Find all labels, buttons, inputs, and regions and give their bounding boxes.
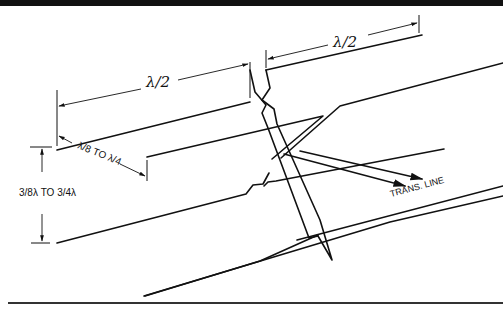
left-dim-arrow-right [178, 64, 248, 80]
small-spacing-arrow-right [120, 164, 145, 176]
svg-text:λ/8 TO λ/4: λ/8 TO λ/4 [76, 140, 123, 168]
front-element-right-half [281, 63, 503, 158]
lower-element-left-half [57, 173, 269, 243]
front-element-left-half [147, 116, 323, 159]
left-half-wave-label: λ/2 [145, 73, 170, 91]
phasing-line-b [262, 70, 332, 260]
small-spacing-label: λ/8 TO λ/4 [76, 140, 123, 168]
top-dim-arrow-right [368, 23, 417, 35]
top-half-wave-label: λ/2 [332, 33, 357, 51]
bottom-left-element [145, 235, 318, 296]
small-spacing-arrow-left [59, 136, 72, 143]
left-dim-arrow-left [59, 89, 141, 106]
top-dim-arrow-left [268, 45, 328, 59]
antenna-diagram: λ/2 λ/2 λ/8 TO λ/4 3/8λ TO 3/4λ TRANS. L… [0, 0, 503, 309]
large-spacing-label: 3/8λ TO 3/4λ [19, 187, 76, 198]
bottom-border-rule [8, 302, 503, 304]
